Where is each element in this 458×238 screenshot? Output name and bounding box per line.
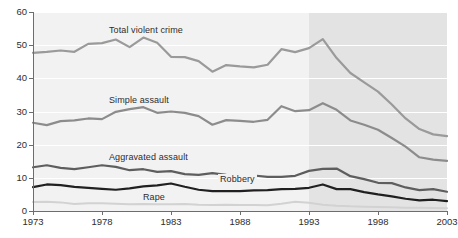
x-axis-tick [102, 211, 103, 215]
y-axis-labels: 0102030405060 [0, 0, 27, 238]
x-axis-labels: 1973197819831988199319982003 [0, 216, 453, 232]
x-axis-tick-label: 2003 [436, 216, 457, 227]
y-axis-tick-label: 20 [16, 140, 27, 149]
x-axis-tick [309, 211, 310, 215]
x-axis-tick-label: 1983 [160, 216, 181, 227]
x-axis-tick [240, 211, 241, 215]
x-axis-tick [171, 211, 172, 215]
y-axis-tick-label: 60 [16, 7, 27, 16]
y-axis-tick-label: 0 [22, 206, 27, 215]
series-line [33, 183, 447, 201]
y-axis-tick [29, 178, 33, 179]
plot-area: Total violent crime Simple assault Aggra… [33, 12, 447, 211]
y-axis-tick [29, 145, 33, 146]
x-axis-tick-label: 1973 [22, 216, 43, 227]
x-axis-tick [378, 211, 379, 215]
y-axis-tick-label: 50 [16, 40, 27, 49]
y-axis-tick [29, 112, 33, 113]
series-label-total-violent-crime: Total violent crime [109, 25, 183, 35]
y-axis-tick [29, 45, 33, 46]
y-axis-tick-label: 30 [16, 107, 27, 116]
x-axis-tick [33, 211, 34, 215]
x-axis-tick-label: 1998 [367, 216, 388, 227]
series-label-aggravated-assault: Aggravated assault [109, 152, 188, 162]
x-axis-tick-label: 1978 [91, 216, 112, 227]
y-axis-tick-label: 40 [16, 73, 27, 82]
y-axis-tick [29, 78, 33, 79]
y-axis-tick [29, 12, 33, 13]
series-line [33, 103, 447, 161]
y-axis-tick-label: 10 [16, 173, 27, 182]
series-label-simple-assault: Simple assault [109, 95, 169, 105]
series-line [33, 202, 447, 209]
x-axis-tick [447, 211, 448, 215]
x-axis-tick-label: 1993 [298, 216, 319, 227]
x-axis-tick-label: 1988 [229, 216, 250, 227]
series-label-robbery: Robbery [218, 174, 257, 184]
y-axis [33, 12, 34, 211]
series-label-rape: Rape [141, 192, 167, 202]
